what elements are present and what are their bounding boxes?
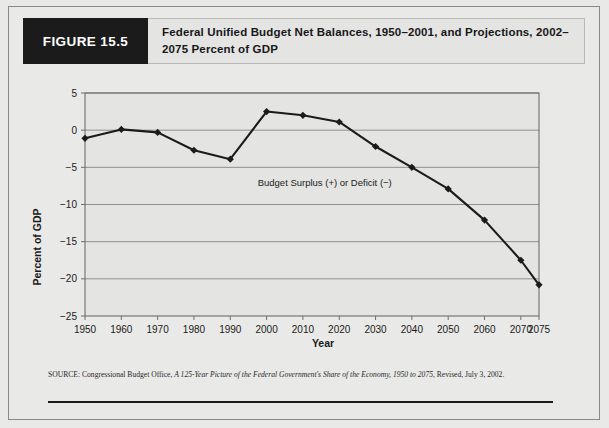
figure-number-tag: FIGURE 15.5 — [23, 18, 148, 64]
x-tick-label: 2030 — [364, 324, 387, 335]
y-tick-label: 5 — [71, 88, 77, 99]
bottom-divider — [48, 401, 553, 403]
x-tick-label: 1960 — [110, 324, 133, 335]
annotation-label: Budget Surplus (+) or Deficit (−) — [258, 177, 392, 188]
x-tick-label: 2040 — [401, 324, 424, 335]
x-tick-label: 2010 — [292, 324, 315, 335]
x-tick-label: 1980 — [183, 324, 206, 335]
y-tick-label: −25 — [60, 311, 77, 322]
y-tick-label: 0 — [71, 125, 77, 136]
x-tick-label: 2020 — [328, 324, 351, 335]
budget-balance-line-chart: 50−5−10−15−20−25 19501960197019801990200… — [23, 72, 585, 354]
source-suffix: , Revised, July 3, 2002. — [433, 370, 504, 379]
source-note: SOURCE: Congressional Budget Office, A 1… — [48, 369, 553, 381]
x-tick-label: 2050 — [437, 324, 460, 335]
y-tick-label: −10 — [60, 199, 77, 210]
x-tick-label: 1990 — [219, 324, 242, 335]
x-tick-label: 1970 — [147, 324, 170, 335]
source-prefix: SOURCE: Congressional Budget Office, — [48, 370, 174, 379]
x-tick-label: 2000 — [255, 324, 278, 335]
x-axis-tick-labels: 1950196019701980199020002010202020302040… — [74, 316, 551, 335]
x-tick-label: 1950 — [74, 324, 97, 335]
y-tick-label: −15 — [60, 236, 77, 247]
y-tick-label: −5 — [66, 162, 78, 173]
chart-container: 50−5−10−15−20−25 19501960197019801990200… — [23, 72, 585, 354]
x-axis-title: Year — [312, 337, 334, 349]
y-axis-title: Percent of GDP — [31, 208, 43, 285]
figure-page: FIGURE 15.5 Federal Unified Budget Net B… — [0, 0, 609, 428]
y-axis-tick-labels: 50−5−10−15−20−25 — [60, 88, 85, 322]
chart-annotation: Budget Surplus (+) or Deficit (−) — [258, 177, 392, 188]
x-tick-label: 2060 — [473, 324, 496, 335]
x-tick-label: 2075 — [528, 324, 551, 335]
page-title: Federal Unified Budget Net Balances, 195… — [148, 24, 584, 57]
figure-header: FIGURE 15.5 Federal Unified Budget Net B… — [23, 18, 585, 64]
figure-title-box: Federal Unified Budget Net Balances, 195… — [148, 18, 585, 64]
source-title: A 125-Year Picture of the Federal Govern… — [174, 370, 433, 379]
y-tick-label: −20 — [60, 273, 77, 284]
